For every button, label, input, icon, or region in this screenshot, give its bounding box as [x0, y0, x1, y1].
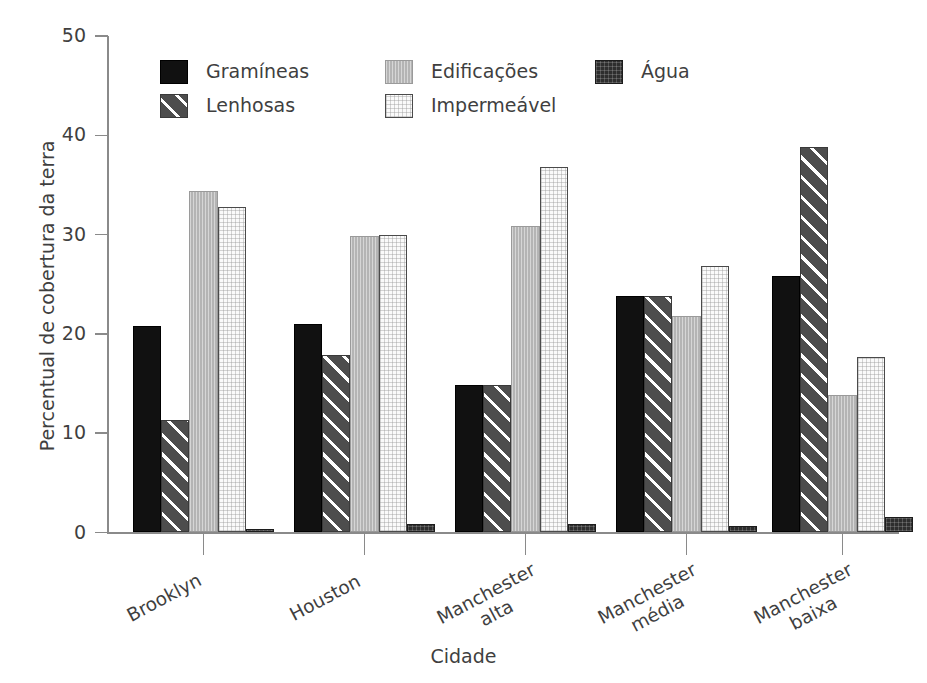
x-category-label-line1: Houston [286, 570, 364, 625]
legend-label: Água [641, 58, 690, 84]
y-axis-title: Percentual de cobertura da terra [36, 86, 58, 506]
x-tick-mark [686, 533, 688, 555]
bar-edificacoes [672, 316, 700, 532]
bar-gramineas [133, 326, 161, 533]
bar-agua [407, 524, 435, 533]
bar-lenhosas [644, 296, 672, 532]
bar-lenhosas [322, 355, 350, 533]
swatch-lenhosas-icon [160, 94, 188, 118]
swatch-impermeavel-icon [385, 94, 413, 118]
bar-impermeavel [540, 167, 568, 532]
legend-label: Lenhosas [206, 92, 295, 118]
chart-legend: GramíneasLenhosasEdificaçõesImpermeávelÁ… [0, 0, 927, 130]
x-tick-mark [525, 533, 527, 555]
legend-label: Edificações [431, 58, 538, 84]
y-tick-mark [95, 432, 108, 434]
bar-edificacoes [511, 226, 539, 533]
bar-edificacoes [350, 236, 378, 533]
bar-gramineas [772, 276, 800, 532]
legend-label: Gramíneas [206, 58, 309, 84]
x-category-label: Manchesteralta [428, 556, 555, 651]
bar-edificacoes [828, 395, 856, 532]
y-tick-mark [95, 333, 108, 335]
bar-gramineas [294, 324, 322, 533]
bar-lenhosas [800, 147, 828, 532]
x-category-label: Houston [267, 560, 383, 636]
bar-agua [885, 517, 913, 533]
bar-gramineas [455, 385, 483, 533]
y-tick-mark [95, 532, 108, 534]
legend-label: Impermeável [431, 92, 556, 118]
bar-edificacoes [189, 191, 217, 533]
bar-lenhosas [483, 385, 511, 533]
y-tick-label: 0 [30, 523, 86, 542]
y-tick-mark [95, 135, 108, 137]
bar-lenhosas [161, 420, 189, 532]
x-category-label-line1: Brooklyn [123, 569, 204, 626]
x-tick-mark [842, 533, 844, 555]
x-axis-title: Cidade [0, 645, 927, 667]
x-tick-mark [364, 533, 366, 555]
bar-agua [729, 526, 757, 533]
x-tick-mark [203, 533, 205, 555]
swatch-edificacoes-icon [385, 60, 413, 84]
bar-agua [246, 529, 274, 533]
bar-chart-figure: 01020304050 Percentual de cobertura da t… [0, 0, 927, 683]
swatch-agua-icon [595, 60, 623, 84]
x-category-label: Manchesterbaixa [745, 556, 872, 651]
bar-impermeavel [379, 235, 407, 533]
bar-impermeavel [857, 357, 885, 533]
swatch-gramineas-icon [160, 60, 188, 84]
bar-impermeavel [701, 266, 729, 532]
bar-impermeavel [218, 207, 246, 533]
x-category-label: Manchestermédia [589, 556, 716, 651]
bar-gramineas [616, 296, 644, 532]
bar-agua [568, 524, 596, 532]
y-tick-mark [95, 234, 108, 236]
x-category-label: Brooklyn [106, 560, 222, 636]
